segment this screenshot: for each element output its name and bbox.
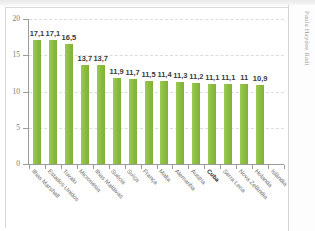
scan-top-band xyxy=(0,0,315,7)
plot-area: 05101520 17,117,116,513,713,711,911,711,… xyxy=(28,19,284,165)
bar-value-label: 17,1 xyxy=(30,29,45,38)
bar-value-label: 11,5 xyxy=(141,70,155,79)
y-axis-tick: 15 xyxy=(23,55,28,56)
y-axis-tick-label: 10 xyxy=(13,87,21,96)
bar-value-label: 13,7 xyxy=(93,54,108,63)
bar-value-label: 11,2 xyxy=(189,72,203,81)
x-axis-labels: Ilhas MarshallEstados UnidosTuvaluMicron… xyxy=(29,166,285,230)
bar-slot: 11,4 xyxy=(157,19,173,164)
x-axis-label: Cuba xyxy=(206,168,221,183)
bar-value-label: 11,1 xyxy=(221,73,235,82)
y-axis-tick: 5 xyxy=(23,128,28,129)
bar-slot: 11,9 xyxy=(109,19,125,164)
bar[interactable] xyxy=(65,44,73,164)
bar[interactable] xyxy=(208,84,216,164)
chart-figure: Paula Haydee Radi 05101520 17,117,116,51… xyxy=(0,0,315,231)
y-axis-tick-label: 0 xyxy=(16,159,20,168)
bar[interactable] xyxy=(224,84,232,164)
bar-slot: 16,5 xyxy=(61,19,77,164)
bar-slot: 11 xyxy=(236,19,252,164)
bar-value-label: 11,1 xyxy=(205,73,219,82)
x-axis-label: França xyxy=(142,168,159,186)
bar[interactable] xyxy=(129,79,137,164)
bar-value-label: 13,7 xyxy=(77,54,92,63)
bar-value-label: 11 xyxy=(240,73,248,82)
bar-slot: 11,2 xyxy=(188,19,204,164)
y-axis-tick-label: 5 xyxy=(16,123,20,132)
bar[interactable] xyxy=(256,85,264,164)
y-axis-tick: 10 xyxy=(23,92,28,93)
bar[interactable] xyxy=(192,83,200,164)
bar-slot: 11,7 xyxy=(125,19,141,164)
bar-slot: 17,1 xyxy=(45,19,61,164)
credit-rail: Paula Haydee Radi xyxy=(288,5,315,231)
y-axis-tick-label: 15 xyxy=(13,50,21,59)
y-axis-tick-label: 20 xyxy=(13,14,21,23)
bar-slot: 11,1 xyxy=(204,19,220,164)
credit-text: Paula Haydee Radi xyxy=(304,11,311,66)
bar-series: 17,117,116,513,713,711,911,711,511,411,3… xyxy=(29,19,284,164)
y-axis-tick: 20 xyxy=(23,19,28,20)
bar[interactable] xyxy=(160,81,168,164)
x-axis-label: Suíça xyxy=(126,168,141,183)
bar-value-label: 16,5 xyxy=(62,33,77,42)
bar[interactable] xyxy=(113,78,121,164)
bar-value-label: 11,3 xyxy=(173,71,187,80)
bar-slot: 11,3 xyxy=(172,19,188,164)
bar-value-label: 11,4 xyxy=(157,70,171,79)
y-axis-tick: 0 xyxy=(23,164,28,165)
bar[interactable] xyxy=(97,65,105,164)
x-axis-label: Malta xyxy=(158,168,173,183)
bar[interactable] xyxy=(145,81,153,164)
bar-slot: 17,1 xyxy=(29,19,45,164)
bar-value-label: 17,1 xyxy=(46,29,61,38)
bar-slot: 13,7 xyxy=(93,19,109,164)
bar[interactable] xyxy=(33,40,41,164)
bar[interactable] xyxy=(49,40,57,164)
bar-value-label: 11,9 xyxy=(110,67,124,76)
bar[interactable] xyxy=(81,65,89,164)
bar-slot: 13,7 xyxy=(77,19,93,164)
bar-value-label: 11,7 xyxy=(126,68,140,77)
bar-value-label: 10,9 xyxy=(253,74,268,83)
bar-slot: 11,1 xyxy=(220,19,236,164)
bar[interactable] xyxy=(176,82,184,164)
bar[interactable] xyxy=(240,84,248,164)
bar-slot: 10,9 xyxy=(252,19,268,164)
bar-slot: 11,5 xyxy=(141,19,157,164)
